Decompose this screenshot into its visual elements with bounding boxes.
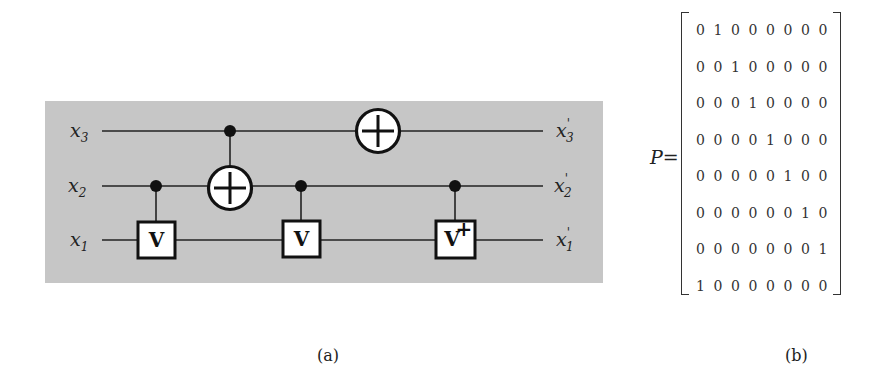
output-label-x3: x'3 bbox=[556, 117, 574, 145]
output-label-x1: x'1 bbox=[556, 226, 574, 254]
matrix-rows: 01000000 00100000 00010000 00001000 0000… bbox=[696, 12, 836, 304]
matrix-row: 00000001 bbox=[696, 231, 836, 268]
gate-cnot bbox=[209, 125, 252, 210]
control-dot-icon bbox=[150, 180, 162, 192]
svg-text:V: V bbox=[293, 227, 310, 251]
gate-controlled-v-2: V bbox=[283, 180, 320, 257]
matrix-row: 00010000 bbox=[696, 85, 836, 122]
svg-text:V: V bbox=[148, 228, 165, 252]
caption-a: (a) bbox=[317, 346, 339, 365]
svg-text:+: + bbox=[456, 217, 473, 241]
gate-not-x3 bbox=[357, 110, 400, 153]
matrix-row: 00000100 bbox=[696, 158, 836, 195]
matrix-label: P= bbox=[650, 146, 679, 168]
control-dot-icon bbox=[224, 125, 236, 137]
gate-controlled-v-1: V bbox=[138, 180, 175, 258]
gate-controlled-v-dagger: V + bbox=[436, 180, 475, 258]
right-bracket bbox=[833, 12, 841, 295]
input-label-x3: x3 bbox=[70, 119, 89, 145]
permutation-matrix: P= 01000000 00100000 00010000 00001000 0… bbox=[640, 8, 860, 298]
matrix-row: 00001000 bbox=[696, 122, 836, 159]
caption-b: (b) bbox=[785, 346, 808, 365]
input-label-x1: x1 bbox=[70, 228, 88, 254]
matrix-row: 01000000 bbox=[696, 12, 836, 49]
input-label-x2: x2 bbox=[68, 174, 86, 200]
output-label-x2: x'2 bbox=[554, 172, 572, 200]
matrix-row: 10000000 bbox=[696, 268, 836, 305]
control-dot-icon bbox=[295, 180, 307, 192]
matrix-row: 00100000 bbox=[696, 49, 836, 86]
matrix-row: 00000010 bbox=[696, 195, 836, 232]
control-dot-icon bbox=[449, 180, 461, 192]
left-bracket bbox=[681, 12, 689, 295]
